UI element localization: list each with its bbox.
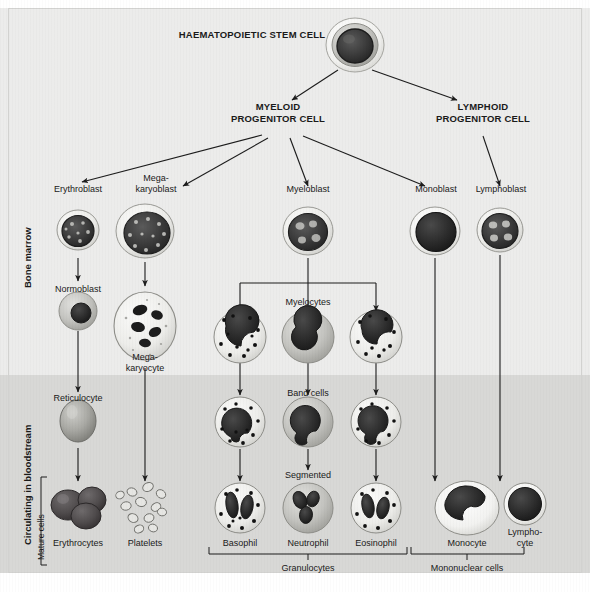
label-granulocytes: Granulocytes (281, 563, 334, 574)
cell-eosinophil (351, 483, 401, 533)
label-erythroblast: Erythroblast (54, 184, 102, 195)
label-basophil: Basophil (223, 538, 258, 549)
cell-haematopoietic-stem-cell (326, 18, 384, 72)
cell-megakaryoblast (116, 204, 174, 258)
cell-monoblast (410, 207, 460, 255)
label-monocyte: Monocyte (447, 538, 486, 549)
label-haematopoietic-stem-cell: HAEMATOPOIETIC STEM CELL (179, 29, 325, 41)
label-bone-marrow: Bone marrow (22, 227, 33, 288)
label-circulating-in-bloodstream: Circulating in bloodstream (22, 425, 33, 545)
cell-myelocyte-neutrophilic (282, 306, 334, 363)
label-lymphoblast: Lymphoblast (476, 184, 527, 195)
cell-normoblast (59, 292, 97, 330)
label-megakaryoblast: Mega- karyoblast (135, 173, 176, 194)
label-myeloid-progenitor-cell: MYELOID PROGENITOR CELL (231, 101, 325, 125)
label-platelets: Platelets (128, 538, 163, 549)
cell-band-eosinophil (351, 397, 401, 447)
label-neutrophil: Neutrophil (287, 538, 328, 549)
cell-basophil (215, 483, 265, 533)
label-lymphocyte: Lympho- cyte (508, 527, 543, 548)
label-reticulocyte: Reticulocyte (53, 393, 102, 404)
haematopoiesis-diagram: HAEMATOPOIETIC STEM CELL MYELOID PROGENI… (0, 0, 590, 592)
cell-neutrophil (283, 483, 333, 533)
label-lymphoid-progenitor-cell: LYMPHOID PROGENITOR CELL (436, 101, 530, 125)
cell-myeloblast (283, 207, 333, 255)
cell-megakaryocyte (114, 292, 176, 360)
label-erythrocytes: Erythrocytes (53, 538, 103, 549)
cell-erythrocytes (51, 487, 106, 529)
cell-myelocyte-eosinophilic (350, 310, 402, 363)
cell-myelocyte-basophilic (214, 305, 266, 363)
cell-erythroblast (57, 210, 99, 250)
diagram-overlay (0, 0, 590, 592)
label-segmented: Segmented (285, 470, 331, 481)
cell-band-neutrophil (283, 397, 333, 447)
label-mature-cells: Mature cells (36, 514, 46, 560)
label-myeloblast: Myeloblast (286, 184, 329, 195)
label-monoblast: Monoblast (415, 184, 457, 195)
label-eosinophil: Eosinophil (355, 538, 397, 549)
cell-reticulocyte (60, 400, 96, 442)
cell-lymphoblast (477, 208, 523, 252)
label-myelocytes: Myelocytes (285, 297, 330, 308)
cell-platelets (114, 481, 167, 534)
cell-monocyte (435, 481, 499, 535)
cell-lymphocyte (504, 483, 546, 525)
label-band-cells: Band cells (287, 388, 329, 399)
label-mononuclear-cells: Mononuclear cells (431, 563, 504, 574)
label-normoblast: Normoblast (55, 284, 101, 295)
cell-band-basophil (215, 397, 265, 447)
label-megakaryocyte: Mega- karyocyte (126, 352, 165, 373)
